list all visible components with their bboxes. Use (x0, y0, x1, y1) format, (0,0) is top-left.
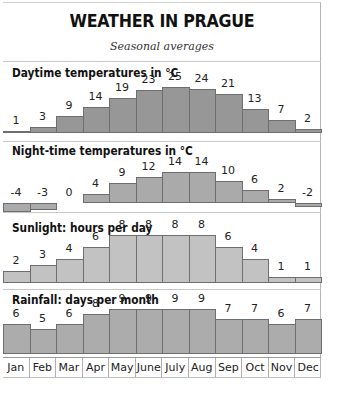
value-label: 8 (189, 218, 215, 231)
month-label: Sep (216, 358, 243, 377)
value-label: 8 (83, 297, 109, 310)
value-label: 9 (162, 292, 188, 305)
bar (83, 314, 111, 354)
month-label: Apr (83, 358, 110, 377)
month-label: Feb (30, 358, 57, 377)
value-label: 6 (56, 307, 82, 320)
value-label: 4 (83, 177, 109, 190)
month-label: Oct (242, 358, 269, 377)
month-label: May (109, 358, 136, 377)
value-label: 6 (83, 230, 109, 243)
value-label: 14 (162, 155, 188, 168)
value-label: 14 (83, 90, 109, 103)
bar (3, 203, 31, 212)
bar (56, 116, 84, 133)
bar (30, 203, 58, 210)
bar (268, 199, 296, 203)
chart-subtitle: Seasonal averages (3, 40, 321, 53)
divider (3, 212, 321, 213)
value-label: 6 (215, 230, 241, 243)
divider (3, 141, 321, 142)
bar (242, 190, 270, 203)
bar (109, 235, 137, 283)
bar (109, 183, 137, 203)
bar (30, 265, 58, 283)
value-label: 6 (3, 307, 29, 320)
value-label: 8 (136, 218, 162, 231)
bar (189, 309, 217, 354)
bar (3, 324, 31, 354)
value-label: 8 (109, 218, 135, 231)
bar (162, 87, 190, 133)
value-label: 6 (242, 173, 268, 186)
bar (162, 172, 190, 203)
bar (295, 203, 323, 207)
bar (56, 259, 84, 283)
month-label: July (162, 358, 189, 377)
bar (215, 247, 243, 283)
bar (189, 89, 217, 133)
month-label: Mar (56, 358, 83, 377)
value-label: 2 (3, 254, 29, 267)
value-label: 12 (136, 160, 162, 173)
bar (109, 98, 137, 133)
value-label: 9 (109, 166, 135, 179)
bar (136, 177, 164, 203)
value-label: 9 (56, 99, 82, 112)
value-label: 1 (295, 260, 321, 273)
bar (268, 120, 296, 133)
value-label: 3 (30, 248, 56, 261)
value-label: 7 (295, 302, 321, 315)
value-label: 14 (189, 155, 215, 168)
value-label: 24 (189, 72, 215, 85)
month-label: Aug (189, 358, 216, 377)
bar (242, 109, 270, 133)
value-label: 3 (30, 110, 56, 123)
value-label: 25 (162, 70, 188, 83)
bar (30, 127, 58, 133)
value-label: 21 (215, 77, 241, 90)
bar (215, 319, 243, 354)
value-label: 9 (109, 292, 135, 305)
month-label: Dec (295, 358, 321, 377)
value-label: 13 (242, 92, 268, 105)
value-label: -4 (3, 186, 29, 199)
bar (215, 94, 243, 133)
bar (215, 181, 243, 203)
bar (3, 131, 31, 133)
bar (83, 247, 111, 283)
bar (268, 324, 296, 354)
value-label: 4 (242, 242, 268, 255)
divider (3, 61, 321, 62)
bar (83, 107, 111, 133)
bar (162, 235, 190, 283)
bar (162, 309, 190, 354)
value-label: -2 (295, 186, 321, 199)
value-label: 19 (109, 81, 135, 94)
value-label: 7 (215, 302, 241, 315)
value-label: 8 (162, 218, 188, 231)
bar (136, 235, 164, 283)
value-label: 9 (136, 292, 162, 305)
month-label: June (136, 358, 163, 377)
value-label: -3 (30, 186, 56, 199)
bar (295, 319, 323, 354)
month-label: Nov (269, 358, 296, 377)
month-axis: Jan Feb Mar Apr May June July Aug Sep Oc… (3, 357, 321, 378)
value-label: 2 (268, 182, 294, 195)
divider (3, 289, 321, 290)
bar (56, 324, 84, 354)
value-label: 10 (215, 164, 241, 177)
bar (109, 309, 137, 354)
bar (3, 271, 31, 283)
bar (189, 235, 217, 283)
bar (83, 194, 111, 203)
bar (295, 129, 323, 133)
bar (189, 172, 217, 203)
bar (242, 319, 270, 354)
value-label: 9 (189, 292, 215, 305)
value-label: 0 (56, 186, 82, 199)
value-label: 2 (295, 112, 321, 125)
bar (136, 90, 164, 133)
bar (30, 329, 58, 354)
